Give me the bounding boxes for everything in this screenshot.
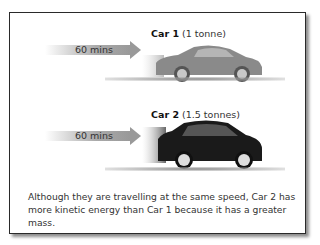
caption-text: Although they are travelling at the same… — [28, 190, 298, 229]
car1-road — [105, 77, 285, 81]
arrow-head-icon — [130, 41, 141, 59]
car1-speed-label: 60 mins — [75, 43, 113, 57]
car1-title: Car 1 (1 tonne) — [151, 28, 226, 39]
car1-speed-arrow: 60 mins — [45, 43, 145, 57]
car1-name: Car 1 — [151, 28, 179, 39]
car2-speed-arrow: 60 mins — [45, 129, 145, 143]
car2-road — [105, 167, 285, 171]
sports-car-icon — [142, 41, 272, 91]
arrow-head-icon — [130, 127, 141, 145]
car2-speed-label: 60 mins — [75, 129, 113, 143]
car1-mass: (1 tonne) — [182, 28, 226, 39]
